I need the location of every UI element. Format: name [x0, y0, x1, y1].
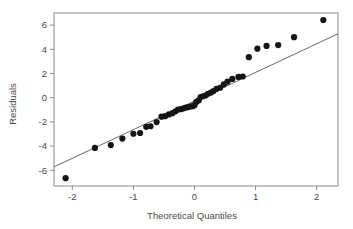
data-point: [254, 46, 260, 52]
data-point: [246, 54, 252, 60]
data-point: [119, 135, 125, 141]
data-point: [275, 42, 281, 48]
y-tick-label: -6: [39, 165, 47, 176]
data-point: [263, 43, 269, 49]
y-tick-label: -4: [39, 140, 47, 151]
y-tick-label: 0: [42, 92, 47, 103]
x-axis-title: Theoretical Quantiles: [147, 210, 237, 221]
x-tick-label: 1: [253, 191, 258, 202]
x-tick-label: -2: [68, 191, 76, 202]
data-point: [108, 142, 114, 148]
y-tick-label: 2: [42, 68, 47, 79]
y-tick-label: 6: [42, 19, 47, 30]
x-tick-label: 0: [192, 191, 197, 202]
x-tick-label: -1: [129, 191, 137, 202]
y-tick-label: -2: [39, 116, 47, 127]
data-point: [130, 131, 136, 137]
data-point: [92, 145, 98, 151]
data-point: [320, 17, 326, 23]
figure-background: [0, 0, 353, 229]
data-point: [63, 175, 69, 181]
y-axis-title: Residuals: [7, 83, 18, 125]
qq-plot-canvas: -2-1012 -6-4-20246 Theoretical Quantiles…: [0, 0, 353, 229]
qq-plot-figure: -2-1012 -6-4-20246 Theoretical Quantiles…: [0, 0, 353, 229]
y-tick-label: 4: [42, 44, 47, 55]
data-point: [147, 123, 153, 129]
data-point: [291, 34, 297, 40]
data-point: [240, 73, 246, 79]
x-tick-label: 2: [314, 191, 319, 202]
data-point: [137, 130, 143, 136]
data-point: [229, 76, 235, 82]
data-point: [154, 119, 160, 125]
